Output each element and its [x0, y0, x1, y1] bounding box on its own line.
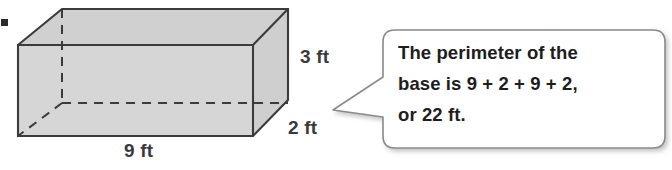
- callout-line-1: The perimeter of the: [398, 37, 660, 68]
- callout-text: The perimeter of the base is 9 + 2 + 9 +…: [398, 37, 660, 130]
- figure-container: 9 ft 3 ft 2 ft The perimeter of the base…: [0, 0, 672, 170]
- callout-line-2: base is 9 + 2 + 9 + 2,: [398, 68, 660, 99]
- callout-line-3: or 22 ft.: [398, 99, 660, 130]
